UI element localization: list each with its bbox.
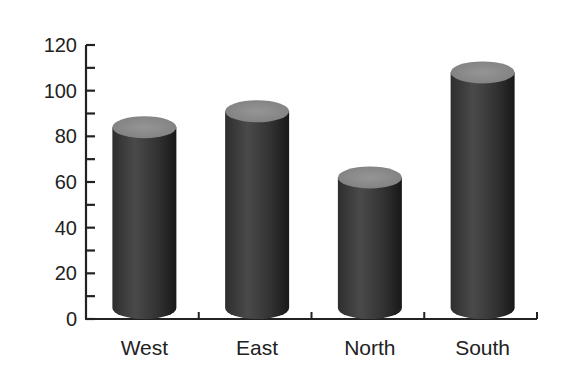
y-tick-label: 20: [55, 262, 77, 284]
y-tick-label: 60: [55, 171, 77, 193]
cylinder-body: [225, 111, 289, 319]
y-tick-label: 120: [44, 34, 77, 56]
cylinder-body: [338, 177, 402, 319]
bar-east: [225, 100, 289, 319]
cylinder-top: [451, 61, 515, 83]
bar-north: [338, 166, 402, 319]
y-tick-label: 40: [55, 217, 77, 239]
x-axis: WestEastNorthSouth: [85, 312, 537, 359]
cylinder-body: [112, 127, 176, 319]
cylinder-top: [225, 100, 289, 122]
bar-chart: 020406080100120 WestEastNorthSouth: [0, 0, 568, 384]
x-tick-label: East: [236, 336, 278, 359]
y-tick-label: 80: [55, 125, 77, 147]
bars: [112, 61, 514, 319]
x-tick-label: South: [455, 336, 510, 359]
cylinder-top: [112, 116, 176, 138]
bar-south: [451, 61, 515, 319]
y-tick-label: 0: [66, 308, 77, 330]
y-axis: 020406080100120: [44, 34, 95, 330]
bar-west: [112, 116, 176, 319]
x-tick-label: North: [344, 336, 395, 359]
cylinder-top: [338, 166, 402, 188]
x-tick-label: West: [121, 336, 169, 359]
y-tick-label: 100: [44, 80, 77, 102]
cylinder-body: [451, 72, 515, 319]
